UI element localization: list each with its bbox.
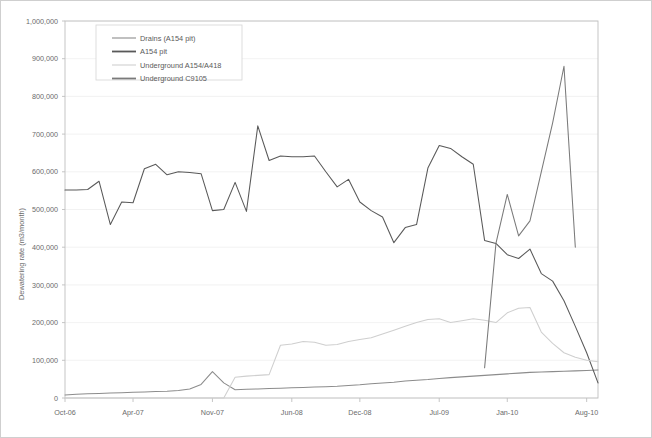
- series-lines-group: [65, 66, 598, 398]
- y-tick-label: 100,000: [32, 356, 58, 365]
- y-tick-label: 400,000: [32, 243, 58, 252]
- chart-container: 0100,000200,000300,000400,000500,000600,…: [0, 0, 652, 438]
- legend-label-1: A154 pit: [140, 47, 167, 56]
- x-axis-tick-marks: [65, 398, 587, 402]
- chart-legend: Drains (A154 pit)A154 pitUnderground A15…: [96, 25, 242, 83]
- series-line-underground-a154-a418: [65, 308, 598, 398]
- x-tick-label: Aug-10: [575, 408, 598, 417]
- dewatering-rate-line-chart: 0100,000200,000300,000400,000500,000600,…: [0, 0, 652, 438]
- y-tick-label: 500,000: [32, 205, 58, 214]
- y-tick-label: 900,000: [32, 54, 58, 63]
- legend-label-2: Underground A154/A418: [140, 61, 221, 70]
- y-tick-label: 300,000: [32, 281, 58, 290]
- legend-label-0: Drains (A154 pit): [140, 34, 195, 43]
- y-axis-tick-labels: 0100,000200,000300,000400,000500,000600,…: [26, 17, 58, 403]
- x-tick-label: Jun-08: [281, 408, 303, 417]
- y-tick-label: 0: [54, 394, 58, 403]
- x-tick-label: Jul-09: [429, 408, 449, 417]
- x-tick-label: Jan-10: [496, 408, 518, 417]
- y-tick-label: 800,000: [32, 92, 58, 101]
- x-tick-label: Dec-08: [348, 408, 371, 417]
- y-tick-label: 200,000: [32, 318, 58, 327]
- y-tick-label: 1,000,000: [26, 17, 58, 26]
- series-line-drains-a154-pit: [65, 370, 598, 395]
- x-tick-label: Apr-07: [122, 408, 144, 417]
- y-axis-title: Dewatering rate (m3/month): [17, 208, 26, 300]
- x-tick-label: Oct-06: [54, 408, 76, 417]
- y-tick-label: 600,000: [32, 167, 58, 176]
- x-axis-tick-labels: Oct-06Apr-07Nov-07Jun-08Dec-08Jul-09Jan-…: [54, 408, 598, 417]
- x-tick-label: Nov-07: [201, 408, 224, 417]
- y-tick-label: 700,000: [32, 130, 58, 139]
- legend-label-3: Underground C9105: [140, 74, 207, 83]
